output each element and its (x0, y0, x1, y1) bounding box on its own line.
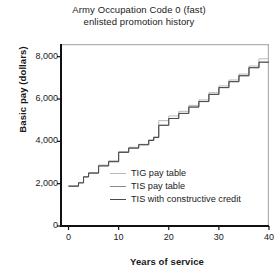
y-axis-tick-label: 0 (6, 221, 58, 230)
x-axis-label: Years of service (58, 256, 276, 267)
y-axis-tick-label: 8,000 (6, 52, 58, 61)
x-axis-tick-label: 20 (152, 233, 186, 242)
legend-color-swatch (110, 199, 126, 200)
chart-figure: Army Occupation Code 0 (fast) enlisted p… (0, 0, 278, 276)
x-axis-tick-labels: 010203040 (0, 233, 278, 247)
legend-color-swatch (110, 173, 126, 174)
legend-item: TIS with constructive credit (110, 193, 275, 206)
chart-legend: TIG pay tableTIS pay tableTIS with const… (110, 167, 275, 206)
legend-item: TIS pay table (110, 180, 275, 193)
x-axis-tick-label: 40 (252, 233, 278, 242)
x-axis-tick-label: 10 (102, 233, 136, 242)
y-axis-tick-label: 4,000 (6, 136, 58, 145)
legend-label: TIS with constructive credit (131, 194, 241, 205)
legend-label: TIG pay table (131, 168, 186, 179)
x-axis-tick-label: 30 (202, 233, 236, 242)
legend-color-swatch (110, 186, 126, 187)
legend-label: TIS pay table (131, 181, 185, 192)
y-axis-tick-label: 2,000 (6, 179, 58, 188)
x-axis-tick-label: 0 (52, 233, 86, 242)
legend-item: TIG pay table (110, 167, 275, 180)
y-axis-tick-label: 6,000 (6, 94, 58, 103)
